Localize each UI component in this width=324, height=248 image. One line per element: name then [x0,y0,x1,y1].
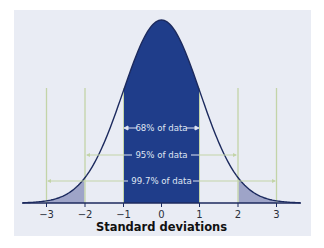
x-axis-title: Standard deviations [96,220,227,234]
tick-label: −2 [78,209,93,220]
tick-label: 3 [273,209,279,220]
x-tick-labels: −3 −2 −1 0 1 2 3 [39,209,280,220]
tick-label: 2 [235,209,241,220]
tick-label: −1 [116,209,131,220]
tick-label: −3 [39,209,54,220]
tick-label: 1 [196,209,202,220]
tick-label: 0 [158,209,164,220]
label-99-7: 99.7% of data [131,176,191,186]
label-68: 68% of data [135,123,187,133]
label-95: 95% of data [135,150,187,160]
normal-distribution-chart: 68% of data 95% of data 99.7% of data −3… [0,0,324,248]
